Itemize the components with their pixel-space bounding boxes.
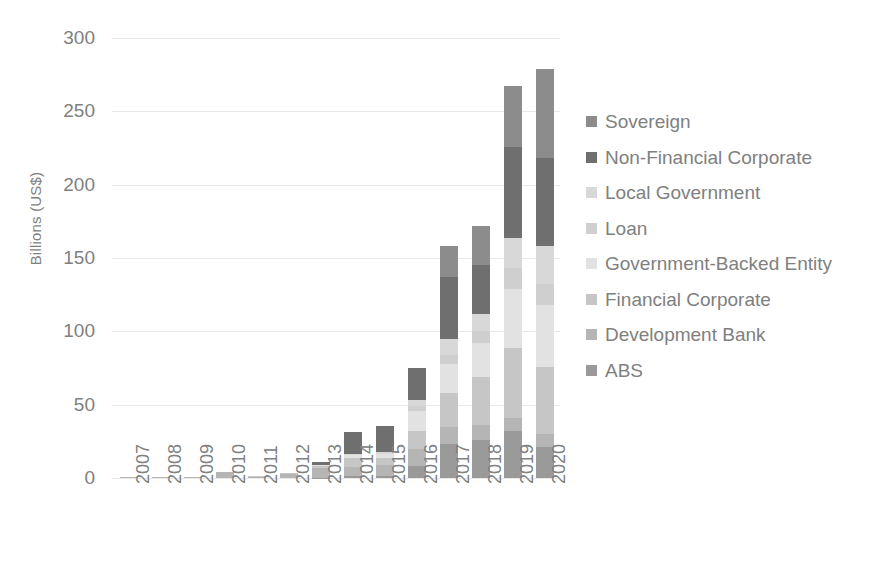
x-axis-tick-label: 2012 [294,414,312,484]
x-axis-tick-label: 2009 [198,414,216,484]
legend-item[interactable]: ABS [586,353,876,389]
x-axis-tick-label: 2011 [262,414,280,484]
chart-legend: SovereignNon-Financial CorporateLocal Go… [586,104,876,388]
legend-swatch-icon [586,365,597,376]
legend-label: Sovereign [605,112,691,131]
bar-segment [536,284,554,305]
bar-segment [504,348,522,418]
legend-item[interactable]: Sovereign [586,104,876,140]
plot-area [112,38,560,478]
legend-label: ABS [605,361,643,380]
legend-swatch-icon [586,258,597,269]
x-axis-tick-labels: 2007200820092010201120122013201420152016… [112,478,560,563]
legend-label: Local Government [605,183,760,202]
bar-segment [504,238,522,269]
bar-segment [536,158,554,246]
legend-swatch-icon [586,187,597,198]
bar-segment [440,355,458,364]
y-axis-tick-label: 50 [35,395,95,414]
bar-segment [472,314,490,332]
bar-segment [440,339,458,355]
legend-item[interactable]: Government-Backed Entity [586,246,876,282]
legend-swatch-icon [586,152,597,163]
y-axis-title: Billions (US$) [27,124,44,314]
x-axis-tick-label: 2015 [390,414,408,484]
legend-label: Government-Backed Entity [605,254,832,273]
legend-item[interactable]: Financial Corporate [586,282,876,318]
y-axis-tick-label: 250 [35,101,95,120]
y-axis-tick-label: 100 [35,321,95,340]
legend-label: Loan [605,219,647,238]
legend-label: Non-Financial Corporate [605,148,812,167]
y-axis-tick-label: 300 [35,28,95,47]
y-axis-tick-label: 150 [35,248,95,267]
stacked-bar-chart: Billions (US$) 300250200150100500 200720… [0,0,879,563]
legend-swatch-icon [586,116,597,127]
bar-segment [536,246,554,284]
y-axis-tick-label: 0 [35,468,95,487]
x-axis-tick-label: 2014 [358,414,376,484]
bar-segment [472,265,490,313]
legend-label: Development Bank [605,325,766,344]
legend-swatch-icon [586,294,597,305]
legend-item[interactable]: Loan [586,211,876,247]
x-axis-tick-label: 2018 [486,414,504,484]
gridline [112,331,560,332]
bar-segment [536,69,554,158]
legend-item[interactable]: Non-Financial Corporate [586,140,876,176]
bar-segment [472,331,490,343]
x-axis-tick-label: 2013 [326,414,344,484]
x-axis-tick-label: 2019 [518,414,536,484]
bar-segment [440,246,458,277]
bar-segment [504,86,522,146]
bar-segment [440,364,458,393]
bar-segment [440,277,458,339]
x-axis-tick-label: 2007 [134,414,152,484]
gridline [112,185,560,186]
bar-segment [504,147,522,238]
bar-segment [472,226,490,266]
gridline [112,111,560,112]
bar-segment [408,368,426,400]
legend-swatch-icon [586,223,597,234]
x-axis-tick-label: 2017 [454,414,472,484]
gridline [112,405,560,406]
gridline [112,38,560,39]
x-axis-tick-label: 2016 [422,414,440,484]
legend-item[interactable]: Development Bank [586,317,876,353]
bar-segment [536,305,554,367]
legend-label: Financial Corporate [605,290,771,309]
x-axis-tick-label: 2010 [230,414,248,484]
x-axis-tick-label: 2008 [166,414,184,484]
bar-segment [504,289,522,348]
gridline [112,258,560,259]
y-axis-tick-label: 200 [35,175,95,194]
x-axis-tick-label: 2020 [550,414,568,484]
legend-item[interactable]: Local Government [586,175,876,211]
legend-swatch-icon [586,329,597,340]
bar-segment [472,343,490,377]
bar-segment [504,268,522,289]
